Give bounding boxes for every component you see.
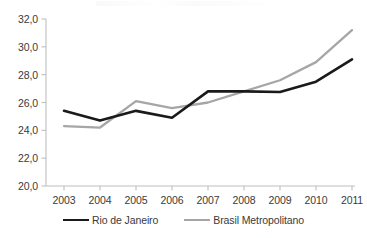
x-axis-ticks (64, 186, 352, 191)
series-line-brasil-metropolitano (64, 30, 352, 127)
xtick-label: 2008 (224, 194, 264, 206)
ytick-label: 24,0 (4, 124, 38, 136)
legend-item-brasil-metropolitano[interactable]: Brasil Metropolitano (184, 214, 304, 226)
legend-label: Brasil Metropolitano (213, 214, 304, 226)
ytick-label: 28,0 (4, 69, 38, 81)
xtick-label: 2006 (152, 194, 192, 206)
legend-line-swatch-icon (63, 219, 89, 221)
xtick-label: 2010 (296, 194, 336, 206)
xtick-label: 2003 (44, 194, 84, 206)
xtick-label: 2007 (188, 194, 228, 206)
xtick-label: 2009 (260, 194, 300, 206)
ytick-label: 20,0 (4, 180, 38, 192)
xtick-label: 2005 (116, 194, 156, 206)
ytick-label: 30,0 (4, 41, 38, 53)
legend-line-swatch-icon (184, 219, 210, 221)
series-line-rio-de-janeiro (64, 59, 352, 120)
ytick-label: 22,0 (4, 152, 38, 164)
xtick-label: 2004 (80, 194, 120, 206)
y-axis-ticks (42, 19, 47, 186)
chart-legend: Rio de Janeiro Brasil Metropolitano (0, 211, 367, 229)
legend-label: Rio de Janeiro (92, 214, 158, 226)
xtick-label: 2011 (332, 194, 367, 206)
ytick-label: 26,0 (4, 97, 38, 109)
line-chart: 32,0 30,0 28,0 26,0 24,0 22,0 20,0 2003 … (0, 0, 367, 238)
legend-item-rio-de-janeiro[interactable]: Rio de Janeiro (63, 214, 158, 226)
ytick-label: 32,0 (4, 13, 38, 25)
